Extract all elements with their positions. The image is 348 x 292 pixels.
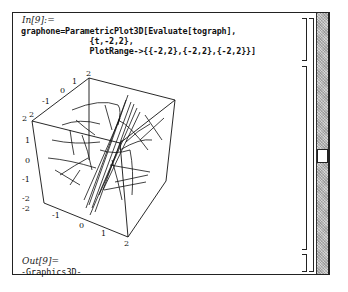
tick-label: 1: [25, 136, 30, 145]
tick-label: -2: [22, 194, 30, 203]
vertical-scrollbar[interactable]: [316, 13, 330, 274]
graphics3d-plot[interactable]: 2 1 0 -1 2 2 1 0 -1 -2 -2 -1 0 1 2: [0, 0, 348, 292]
tick-label: 1: [101, 229, 106, 238]
tick-label: -2: [22, 204, 30, 213]
tick-label: 2: [29, 110, 34, 119]
tick-label: -1: [42, 97, 50, 106]
tick-label: 1: [72, 77, 77, 86]
group-cell-bracket[interactable]: [309, 18, 314, 272]
tick-label: 0: [60, 86, 65, 95]
tick-label: 2: [124, 239, 129, 248]
tick-label: 2: [86, 69, 91, 78]
tick-label: 0: [79, 221, 84, 230]
tick-label: 2: [22, 114, 27, 123]
graphics-cell-bracket[interactable]: [302, 66, 307, 250]
scrollbar-thumb[interactable]: [317, 149, 328, 163]
output-cell-label: Out[9]=: [22, 256, 59, 266]
input-cell-bracket[interactable]: [302, 18, 307, 61]
tick-label: 0: [25, 156, 30, 165]
tick-label: -1: [52, 211, 60, 220]
output-cell-bracket[interactable]: [302, 254, 307, 272]
output-value: -Graphics3D-: [21, 267, 82, 277]
tick-label: -1: [22, 175, 30, 184]
